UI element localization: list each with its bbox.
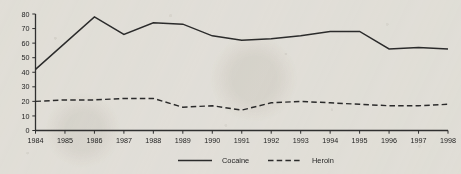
- y-tick-label-40: 40: [22, 68, 30, 77]
- x-tick-label-1996: 1996: [381, 136, 397, 145]
- series-line-heroin: [36, 98, 449, 110]
- x-axis: 1984198519861987198819891990199119921993…: [28, 131, 457, 145]
- x-tick-label-1991: 1991: [234, 136, 250, 145]
- line-chart: 01020304050607080 1984198519861987198819…: [0, 0, 461, 174]
- y-axis-tick-labels: 01020304050607080: [22, 10, 30, 136]
- x-tick-label-1992: 1992: [263, 136, 279, 145]
- x-tick-label-1995: 1995: [352, 136, 368, 145]
- chart-legend: Cocaine Heroin: [178, 156, 334, 165]
- x-tick-label-1993: 1993: [293, 136, 309, 145]
- x-tick-label-1984: 1984: [28, 136, 44, 145]
- x-tick-label-1989: 1989: [175, 136, 191, 145]
- x-tick-label-1985: 1985: [57, 136, 73, 145]
- x-tick-label-1990: 1990: [204, 136, 220, 145]
- y-tick-label-70: 70: [22, 24, 30, 33]
- y-tick-label-50: 50: [22, 53, 30, 62]
- chart-canvas: 01020304050607080 1984198519861987198819…: [0, 0, 461, 174]
- y-tick-label-60: 60: [22, 39, 30, 48]
- y-tick-label-30: 30: [22, 82, 30, 91]
- y-tick-label-80: 80: [22, 10, 30, 19]
- legend-label-cocaine: Cocaine: [222, 156, 249, 165]
- y-tick-label-0: 0: [26, 126, 30, 135]
- series-line-cocaine: [36, 17, 449, 69]
- y-tick-label-10: 10: [22, 112, 30, 121]
- x-tick-label-1987: 1987: [116, 136, 132, 145]
- legend-label-heroin: Heroin: [312, 156, 334, 165]
- x-axis-tick-labels: 1984198519861987198819891990199119921993…: [28, 136, 457, 145]
- plot-series-group: [36, 17, 449, 110]
- y-tick-label-20: 20: [22, 97, 30, 106]
- y-axis: 01020304050607080: [22, 10, 36, 136]
- x-tick-label-1994: 1994: [322, 136, 338, 145]
- x-tick-label-1986: 1986: [86, 136, 102, 145]
- x-tick-label-1997: 1997: [411, 136, 427, 145]
- x-tick-label-1998: 1998: [440, 136, 456, 145]
- x-tick-label-1988: 1988: [145, 136, 161, 145]
